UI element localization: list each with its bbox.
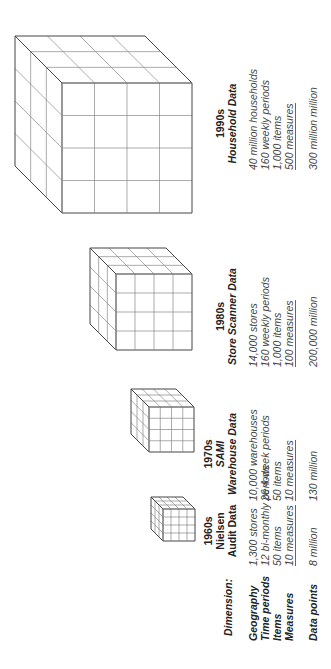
col-1960s-era: 1960s [202,501,214,561]
cube-1990s [15,36,192,213]
time-periods-label: Time periods [259,576,271,641]
dimension-label: Dimension: [222,579,234,636]
col-1970s-title-1: SAMI [214,409,226,499]
col-1990s-geography: 40 million households [247,69,259,170]
col-1970s-title-2: Warehouse Data [226,409,238,499]
col-1970s-measures: 10 measures [283,440,296,501]
measures-label: Measures [283,593,295,641]
col-1960s-data-points: 8 million [307,527,319,566]
col-1960s-title-2: Audit Data [226,501,238,561]
col-1970s-geography: 10,000 warehouses [247,409,259,501]
cube-1970s [131,389,194,452]
data-points-label: Data points [307,584,319,641]
col-1990s-items: 1,000 items [271,116,283,170]
col-1970s-data-points: 130 million [307,451,319,501]
col-1990s-era: 1990s [214,76,226,171]
col-1990s-data-points: 300 million million [307,87,319,170]
geography-label: Geography [247,586,259,641]
col-1980s-era: 1980s [214,264,226,369]
col-1960s-geography: 1,300 stores [247,508,259,566]
col-1970s-items: 50 items [271,461,283,501]
col-1970s-era: 1970s [202,409,214,499]
col-1960s-items: 50 items [271,526,283,566]
col-1980s-geography: 14,000 stores [247,303,259,367]
col-1970s-time-periods: 26 4-week periods [259,415,271,501]
cube-1960s [151,497,195,541]
col-1990s-time-periods: 160 weekly periods [259,80,271,170]
col-1980s-measures: 100 measures [283,300,296,367]
col-1960s-title-1: Nielsen [214,501,226,561]
col-1980s-title-1: Store Scanner Data [226,264,238,369]
col-1980s-data-points: 200,000 million [307,296,319,367]
col-1980s-items: 1,000 items [271,313,283,367]
col-1990s-measures: 500 measures [283,103,296,170]
items-label: Items [271,614,283,641]
data-cube-diagram: Dimension: Geography Time periods Items … [0,0,331,669]
col-1960s-measures: 10 measures [283,505,296,566]
col-1980s-time-periods: 160 weekly periods [259,277,271,367]
cube-1980s [90,248,192,350]
col-1990s-title-1: Household Data [226,76,238,171]
